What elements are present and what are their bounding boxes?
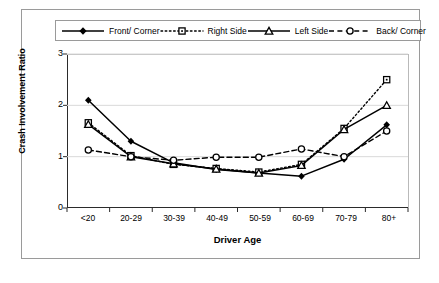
legend-label-back-corner: Back/ Corner xyxy=(373,26,426,36)
plot-top-edge xyxy=(67,54,408,55)
y-axis-title: Crash Involvement Ratio xyxy=(17,36,27,166)
y-tick-1: 1 xyxy=(45,151,63,161)
x-tick-under-20: <20 xyxy=(65,213,111,223)
plot-right-edge xyxy=(408,54,409,208)
y-tick-2: 2 xyxy=(45,99,63,109)
legend-label-right-side: Right Side xyxy=(205,26,247,36)
x-tick-30-39: 30-39 xyxy=(151,213,197,223)
legend-item-back-corner[interactable]: Back/ Corner xyxy=(328,25,426,37)
x-tick-20-29: 20-29 xyxy=(108,213,154,223)
plot-area xyxy=(67,54,408,208)
legend-label-front-corner: Front/ Corner xyxy=(106,26,160,36)
right-side-line-swatch-icon xyxy=(160,25,204,37)
legend-item-left-side[interactable]: Left Side xyxy=(247,25,329,37)
x-tick-60-69: 60-69 xyxy=(280,213,326,223)
y-tick-3: 3 xyxy=(45,48,63,58)
legend-label-left-side: Left Side xyxy=(292,26,329,36)
x-tick-70-79: 70-79 xyxy=(323,213,369,223)
back-corner-line-swatch-icon xyxy=(328,25,372,37)
legend-item-right-side[interactable]: Right Side xyxy=(160,25,247,37)
x-axis-title: Driver Age xyxy=(67,234,408,245)
chart-figure: Front/ Corner Right Side Left Side Back/… xyxy=(0,0,439,283)
x-tick-40-49: 40-49 xyxy=(194,213,240,223)
left-side-line-swatch-icon xyxy=(247,25,291,37)
front-corner-line-swatch-icon xyxy=(61,25,105,37)
y-tick-0: 0 xyxy=(45,202,63,212)
legend-item-front-corner[interactable]: Front/ Corner xyxy=(61,25,160,37)
x-tick-80-plus: 80+ xyxy=(366,213,412,223)
chart-legend: Front/ Corner Right Side Left Side Back/… xyxy=(55,20,421,41)
x-tick-50-59: 50-59 xyxy=(237,213,283,223)
